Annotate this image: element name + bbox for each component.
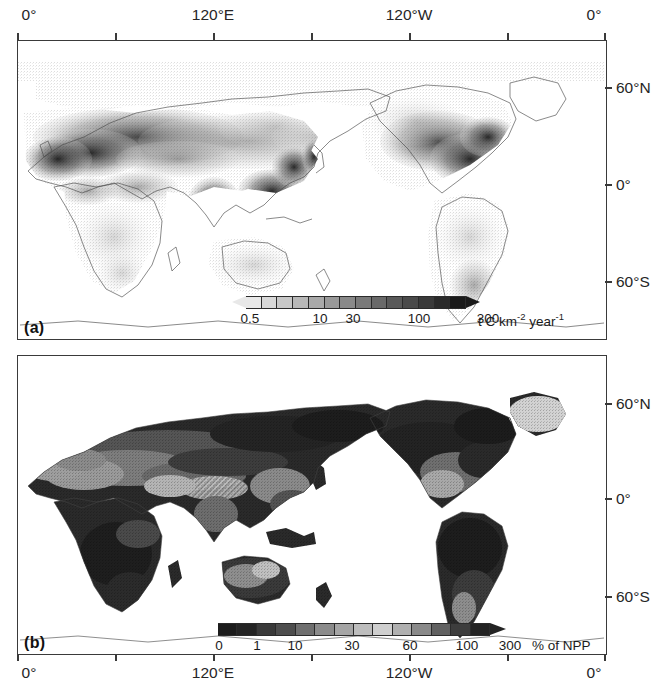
bottom-tick-0	[17, 654, 19, 661]
colorbar-b-tick-label: 100	[456, 638, 479, 653]
colorbar-b-segment	[237, 623, 256, 636]
colorbar-a-segment	[372, 296, 388, 309]
colorbar-a-segment	[435, 296, 451, 309]
top-axis-label-120w: 120°W	[386, 6, 433, 24]
map-raster-b	[18, 356, 606, 654]
bottom-axis-label-360: 0°	[587, 664, 602, 682]
colorbar-a-unit: t C km-2 year-1	[478, 311, 564, 329]
right-tick-b-0	[605, 498, 612, 500]
colorbar-b: 01103060100300 % of NPP	[214, 623, 534, 663]
top-tick-0	[17, 33, 19, 40]
right-axis-a-label-0: 0°	[616, 176, 631, 194]
colorbar-b-segment	[471, 623, 490, 636]
right-axis-a-label-60n: 60°N	[616, 79, 651, 97]
map-panel-b: (b)	[17, 355, 607, 655]
bottom-tick-360	[604, 654, 606, 661]
right-axis-b-label-0: 0°	[616, 490, 631, 508]
colorbar-b-tick-label: 10	[287, 638, 302, 653]
panel-a-tag: (a)	[24, 319, 44, 337]
right-tick-b-60n	[605, 403, 612, 405]
colorbar-a-gradient	[246, 296, 466, 309]
figure-root: 0° 120°E 120°W 0°	[0, 0, 664, 688]
colorbar-b-segment	[335, 623, 354, 636]
top-tick-120w	[409, 33, 411, 40]
colorbar-a-arrow-left	[232, 296, 246, 308]
top-tick-120e	[213, 33, 215, 40]
colorbar-a-segment	[262, 296, 278, 309]
colorbar-a-segment	[387, 296, 403, 309]
colorbar-a-segment	[419, 296, 435, 309]
colorbar-b-segment	[315, 623, 334, 636]
colorbar-b-segment	[296, 623, 315, 636]
colorbar-b-arrow-right	[490, 623, 506, 635]
top-tick-60e	[115, 33, 117, 40]
top-axis-label-120e: 120°E	[192, 6, 234, 24]
colorbar-b-segment	[218, 623, 237, 636]
colorbar-a-segment	[293, 296, 309, 309]
colorbar-b-tick-label: 300	[499, 638, 522, 653]
top-axis-label-0: 0°	[22, 6, 37, 24]
colorbar-b-segment	[451, 623, 470, 636]
right-axis-b-label-60s: 60°S	[616, 588, 650, 606]
colorbar-b-segment	[412, 623, 431, 636]
colorbar-b-unit: % of NPP	[532, 638, 591, 653]
top-axis-label-360: 0°	[587, 6, 602, 24]
colorbar-b-segment	[276, 623, 295, 636]
colorbar-a-segment	[309, 296, 325, 309]
colorbar-b-segment	[373, 623, 392, 636]
colorbar-b-gradient	[218, 623, 490, 636]
colorbar-a-tick-label: 30	[345, 311, 360, 326]
right-tick-a-0	[605, 184, 612, 186]
bottom-axis-label-0: 0°	[22, 664, 37, 682]
top-tick-60w	[507, 33, 509, 40]
colorbar-a-segment	[403, 296, 419, 309]
right-axis-b-label-60n: 60°N	[616, 395, 651, 413]
colorbar-a-segment	[246, 296, 262, 309]
colorbar-b-segment	[432, 623, 451, 636]
colorbar-b-segment	[393, 623, 412, 636]
map-panel-a: (a)	[17, 40, 607, 340]
colorbar-b-tick-label: 60	[402, 638, 417, 653]
colorbar-a-arrow-right	[466, 296, 480, 308]
colorbar-a-segment	[325, 296, 341, 309]
colorbar-b-segment	[257, 623, 276, 636]
top-tick-360	[604, 33, 606, 40]
colorbar-a-segment	[277, 296, 293, 309]
panel-b-tag: (b)	[24, 634, 45, 652]
bottom-tick-60e	[115, 654, 117, 661]
colorbar-a: 0.51030100300 t C km-2 year-1	[232, 296, 532, 336]
colorbar-a-tick-label: 10	[312, 311, 327, 326]
top-tick-180	[311, 33, 313, 40]
colorbar-b-tick-label: 30	[344, 638, 359, 653]
right-tick-b-60s	[605, 596, 612, 598]
bottom-axis-label-120e: 120°E	[192, 664, 234, 682]
bottom-axis-label-120w: 120°W	[386, 664, 433, 682]
colorbar-a-segment	[356, 296, 372, 309]
colorbar-b-segment	[354, 623, 373, 636]
right-tick-a-60s	[605, 281, 612, 283]
right-axis-a-label-60s: 60°S	[616, 273, 650, 291]
colorbar-a-tick-label: 0.5	[241, 311, 260, 326]
colorbar-b-tick-label: 1	[253, 638, 261, 653]
colorbar-b-tick-label: 0	[215, 638, 223, 653]
colorbar-a-segment	[450, 296, 466, 309]
right-tick-a-60n	[605, 87, 612, 89]
map-raster-a	[18, 41, 606, 339]
colorbar-a-segment	[340, 296, 356, 309]
colorbar-a-tick-label: 100	[408, 311, 431, 326]
